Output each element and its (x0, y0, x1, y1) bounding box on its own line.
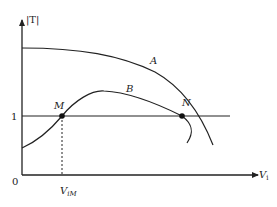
point-n-label: N (181, 97, 192, 108)
point-m-label: M (53, 100, 65, 111)
curve-a-label: A (149, 55, 157, 66)
x-axis-label: Vi (259, 169, 269, 182)
curve-b-label: B (125, 83, 133, 94)
curve-b (22, 91, 191, 148)
point-n (179, 113, 185, 119)
unity-label: 1 (11, 111, 17, 122)
y-axis-label: |T| (26, 14, 39, 26)
vim-label: ViM (60, 185, 77, 198)
origin-label: 0 (12, 176, 18, 187)
point-m (59, 113, 65, 119)
x-axis-label-sub: i (266, 174, 269, 182)
vim-label-sub: iM (67, 190, 77, 198)
diagram-canvas: |T| 1 0 A B M N Vi ViM (0, 0, 277, 207)
